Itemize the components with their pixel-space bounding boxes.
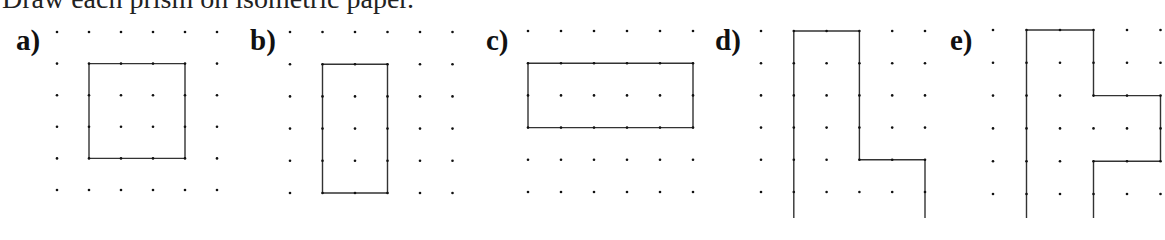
grid-dot (1126, 62, 1129, 65)
grid-dot (924, 94, 927, 97)
grid-dot (1159, 62, 1162, 65)
grid-dot (386, 192, 389, 195)
grid-dot (924, 191, 927, 194)
grid-dot (1059, 160, 1062, 163)
grid-dot (152, 157, 155, 160)
grid-dot (659, 126, 662, 129)
grid-dot (1126, 29, 1129, 32)
grid-dot (825, 191, 828, 194)
grid-dot (891, 126, 894, 129)
grid-dot (184, 94, 187, 97)
grid-dot (924, 159, 927, 162)
grid-dot (593, 62, 596, 65)
grid-dot (386, 127, 389, 130)
grid-dot (321, 31, 324, 34)
grid-dot (152, 126, 155, 129)
grid-dot (216, 94, 219, 97)
grid-dot (1025, 160, 1028, 163)
grid-dot (1126, 127, 1129, 130)
grid-dot (451, 127, 454, 130)
grid-dot (527, 126, 530, 129)
grid-dot (527, 94, 530, 97)
grid-dot (419, 63, 422, 66)
grid-dot (386, 63, 389, 66)
grid-dot (760, 126, 763, 129)
grid-dot (992, 193, 995, 196)
figure-d (760, 30, 927, 218)
grid-dot (88, 157, 91, 160)
grid-dot (56, 31, 59, 34)
grid-dot (992, 160, 995, 163)
grid-dot (692, 94, 695, 97)
grid-dot (1059, 29, 1062, 32)
grid-dot (56, 126, 59, 129)
grid-dot (560, 191, 563, 194)
grid-dot (1092, 127, 1095, 130)
grid-dot (451, 160, 454, 163)
grid-dot (692, 191, 695, 194)
figure-a (56, 31, 219, 218)
grid-dot (1025, 127, 1028, 130)
grid-dot (419, 192, 422, 195)
prism-outline (794, 31, 925, 218)
grid-dot (451, 31, 454, 34)
grid-dot (692, 30, 695, 33)
grid-dot (992, 127, 995, 130)
grid-dot (760, 94, 763, 97)
grid-dot (184, 126, 187, 129)
grid-dot (321, 95, 324, 98)
grid-dot (593, 159, 596, 162)
grid-dot (527, 191, 530, 194)
grid-dot (1159, 160, 1162, 163)
grid-dot (1025, 29, 1028, 32)
grid-dot (354, 127, 357, 130)
grid-dot (659, 30, 662, 33)
grid-dot (184, 62, 187, 65)
grid-dot (659, 191, 662, 194)
grid-dot (593, 191, 596, 194)
grid-dot (289, 63, 292, 66)
grid-dot (593, 30, 596, 33)
grid-dot (120, 126, 123, 129)
grid-dot (560, 30, 563, 33)
grid-dot (1159, 94, 1162, 97)
grid-dot (760, 62, 763, 65)
grid-dot (1126, 94, 1129, 97)
grid-dot (560, 126, 563, 129)
prism-outline (1027, 30, 1161, 218)
grid-dot (1059, 193, 1062, 196)
grid-dot (527, 62, 530, 65)
grid-dot (1159, 193, 1162, 196)
grid-dot (386, 95, 389, 98)
grid-dot (289, 192, 292, 195)
grid-dot (216, 62, 219, 65)
grid-dot (451, 63, 454, 66)
grid-dot (184, 189, 187, 192)
grid-dot (321, 160, 324, 163)
grid-dot (891, 159, 894, 162)
grid-dot (321, 63, 324, 66)
grid-dot (1092, 94, 1095, 97)
grid-dot (419, 127, 422, 130)
figure-b (289, 31, 454, 195)
prism-outline (528, 63, 693, 127)
grid-dot (1092, 160, 1095, 163)
grid-dot (289, 31, 292, 34)
grid-dot (858, 159, 861, 162)
grid-dot (1159, 29, 1162, 32)
grid-dot (321, 192, 324, 195)
grid-dot (386, 31, 389, 34)
grid-dot (1159, 127, 1162, 130)
figure-c (527, 30, 695, 194)
grid-dot (152, 94, 155, 97)
grid-dot (891, 191, 894, 194)
grid-dot (760, 30, 763, 33)
grid-dot (216, 189, 219, 192)
grid-dot (419, 160, 422, 163)
grid-dot (216, 31, 219, 34)
grid-dot (120, 62, 123, 65)
grid-dot (626, 62, 629, 65)
grid-dot (858, 126, 861, 129)
grid-dot (152, 189, 155, 192)
grid-dot (858, 191, 861, 194)
